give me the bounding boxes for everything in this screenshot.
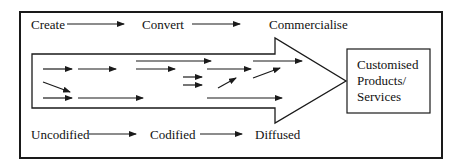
output-line-2: Products/ [357, 73, 418, 89]
output-box-text: Customised Products/ Services [357, 57, 418, 105]
output-line-1: Customised [357, 57, 418, 73]
label-convert: Convert [142, 18, 184, 32]
label-codified: Codified [150, 128, 196, 142]
big-block-arrow [32, 38, 346, 123]
output-line-3: Services [357, 89, 418, 105]
label-commercialise: Commercialise [269, 18, 348, 32]
label-diffused: Diffused [255, 128, 300, 142]
inner-arrows [43, 61, 302, 98]
label-create: Create [31, 18, 65, 32]
label-uncodified: Uncodified [31, 128, 89, 142]
